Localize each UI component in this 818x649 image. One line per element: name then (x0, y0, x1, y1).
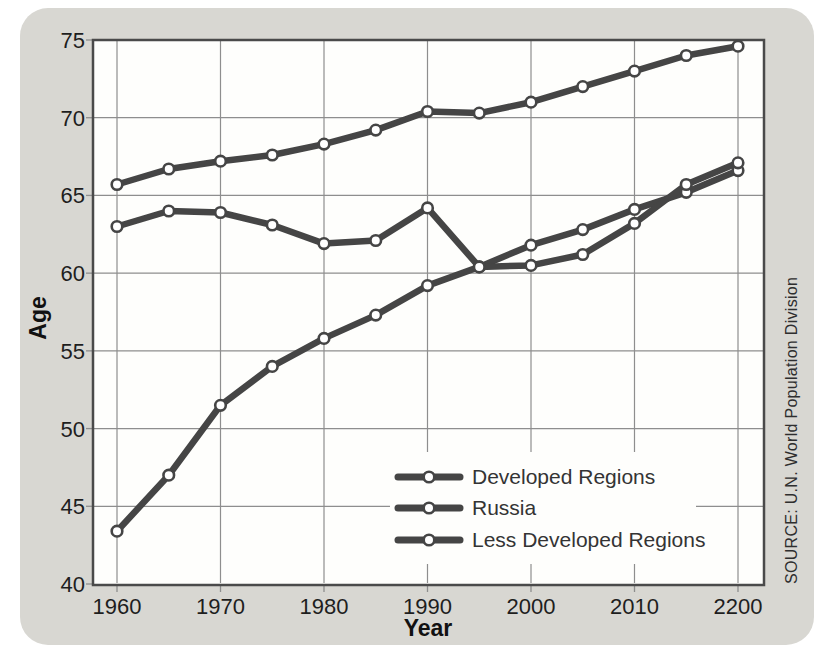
x-tick-label: 2000 (507, 594, 556, 619)
y-tick-label: 55 (61, 339, 85, 364)
data-point-marker-less-developed-regions (215, 400, 226, 411)
data-point-marker-less-developed-regions (370, 310, 381, 321)
data-point-marker-russia (163, 206, 174, 217)
y-axis-title: Age (25, 296, 51, 339)
data-point-marker-russia (733, 158, 744, 169)
data-point-marker-less-developed-regions (163, 470, 174, 481)
data-point-marker-less-developed-regions (319, 333, 330, 344)
legend: Developed RegionsRussiaLess Developed Re… (390, 452, 705, 564)
data-point-marker-less-developed-regions (629, 204, 640, 215)
data-point-marker-russia (577, 249, 588, 260)
data-point-marker-developed-regions (681, 50, 692, 61)
x-tick-label: 1970 (196, 594, 245, 619)
x-axis-title: Year (404, 615, 453, 641)
source-text: SOURCE: U.N. World Population Division (783, 277, 800, 584)
legend-label-developed-regions: Developed Regions (472, 465, 655, 488)
y-tick-label: 60 (61, 261, 85, 286)
data-point-marker-developed-regions (370, 125, 381, 136)
data-point-marker-russia (681, 179, 692, 190)
legend-label-russia: Russia (472, 496, 537, 519)
legend-label-less-developed-regions: Less Developed Regions (472, 528, 705, 551)
data-point-marker-russia (267, 220, 278, 231)
data-point-marker-developed-regions (319, 139, 330, 150)
data-point-marker-russia (319, 238, 330, 249)
data-point-marker-less-developed-regions (526, 240, 537, 251)
legend-swatch-marker-developed-regions (424, 472, 435, 483)
data-point-marker-russia (629, 218, 640, 229)
data-point-marker-less-developed-regions (267, 361, 278, 372)
x-tick-label: 1980 (300, 594, 349, 619)
y-tick-label: 65 (61, 183, 85, 208)
data-point-marker-developed-regions (215, 156, 226, 167)
y-tick-label: 70 (61, 106, 85, 131)
x-tick-label: 1960 (93, 594, 142, 619)
data-point-marker-developed-regions (112, 179, 123, 190)
data-point-marker-developed-regions (163, 164, 174, 175)
data-point-marker-russia (526, 260, 537, 271)
data-point-marker-developed-regions (422, 106, 433, 117)
legend-swatch-marker-russia (424, 503, 435, 514)
y-tick-label: 40 (61, 572, 85, 597)
data-point-marker-developed-regions (629, 66, 640, 77)
data-point-marker-russia (112, 221, 123, 232)
data-point-marker-russia (370, 235, 381, 246)
data-point-marker-developed-regions (267, 150, 278, 161)
y-tick-label: 50 (61, 417, 85, 442)
y-tick-label: 45 (61, 494, 85, 519)
x-tick-label: 2010 (610, 594, 659, 619)
data-point-marker-russia (422, 203, 433, 214)
line-chart: Developed RegionsRussiaLess Developed Re… (0, 0, 818, 649)
y-tick-label: 75 (61, 28, 85, 53)
data-point-marker-less-developed-regions (577, 224, 588, 235)
data-point-marker-developed-regions (577, 81, 588, 92)
x-tick-label: 2200 (714, 594, 763, 619)
data-point-marker-developed-regions (526, 97, 537, 108)
data-point-marker-developed-regions (474, 108, 485, 119)
data-point-marker-developed-regions (733, 41, 744, 52)
data-point-marker-russia (215, 207, 226, 218)
data-point-marker-less-developed-regions (112, 526, 123, 537)
data-point-marker-russia (474, 262, 485, 273)
data-point-marker-less-developed-regions (422, 280, 433, 291)
figure: Developed RegionsRussiaLess Developed Re… (0, 0, 818, 649)
legend-swatch-marker-less-developed-regions (424, 535, 435, 546)
